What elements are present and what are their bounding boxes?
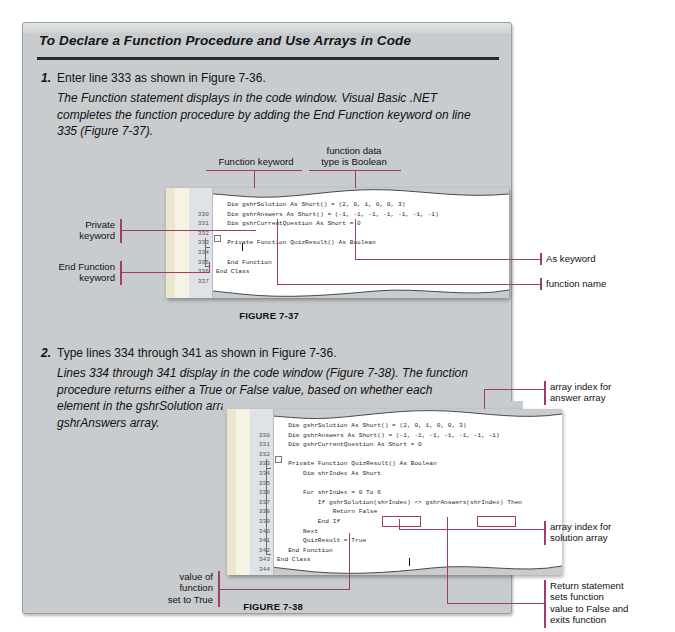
callout-solution-array-index: array index for solution array [550,521,675,544]
page-root: To Declare a Function Procedure and Use … [0,0,675,632]
figure-7-37: 330 331 332 333 334 335 336 337 Dim gshr… [166,188,509,298]
callout-return-statement: Return statement sets function value to … [550,580,675,626]
callout-solution-array-index-bar [544,521,546,545]
step-1-number: 1. [41,71,51,85]
torn-edge-bottom-1 [166,285,509,298]
highlight-answer-index-b [477,516,516,527]
code-line-numbers-2: 330 331 332 333 334 335 336 337 338 339 … [251,421,270,575]
callout-as-keyword-bar [540,253,542,265]
code-caret-2 [409,558,410,566]
callout-answer-array-index-bar [544,381,546,405]
instruction-panel: To Declare a Function Procedure and Use … [22,22,512,614]
callout-value-of-function-leader [220,589,350,590]
code-gutter-divider-2 [273,409,274,575]
code-gutter-shadow-1 [166,188,175,298]
callout-function-name-bar [540,278,542,290]
callout-function-name-leader [277,284,540,285]
figure-7-38: 330 331 332 333 334 335 336 337 338 339 … [227,409,562,575]
code-gutter-cream-1 [175,188,189,298]
callout-solution-array-index-leader [399,529,544,530]
callout-private-keyword-bar [120,219,122,243]
callout-as-keyword-leader [355,259,540,260]
code-text-2: Dim gshrSolution As Short() = (2, 0, 1, … [277,421,522,565]
callout-answer-array-index: array index for answer array [550,381,675,404]
callout-return-statement-leader-v [447,517,448,603]
callout-value-of-function: value of function set to True [143,571,213,605]
code-tree-branch-2a [266,468,271,469]
page-title: To Declare a Function Procedure and Use … [39,33,499,48]
callout-as-keyword: As keyword [546,253,675,264]
callout-return-statement-leader [447,603,544,604]
code-collapse-box-2[interactable]: - [275,456,282,463]
callout-end-function-keyword-leader-v [209,262,210,273]
step-2-heading: Type lines 334 through 341 as shown in F… [57,346,487,360]
highlight-answer-index-a [382,516,421,527]
callout-end-function-keyword-leader [122,272,210,273]
callout-solution-array-index-leader-v [399,519,400,529]
figure-7-37-caption: FIGURE 7-37 [209,310,329,321]
code-line-numbers-1: 330 331 332 333 334 335 336 337 [190,200,209,286]
callout-private-keyword-leader [122,230,256,231]
step-1-body: The Function statement displays in the c… [57,90,477,140]
callout-end-function-keyword: End Function keyword [37,261,115,284]
code-caret-1 [242,243,243,251]
callout-answer-array-index-leader [484,389,544,390]
callout-function-name: function name [546,278,675,289]
code-collapse-box-1[interactable]: - [214,235,221,242]
callout-function-name-leader-v [277,219,278,284]
title-divider [37,57,499,60]
figure-7-38-caption: FIGURE 7-38 [213,601,333,612]
code-tree-branch-2b [266,554,271,555]
code-gutter-cream-2 [236,409,250,575]
code-tree-vertical-2 [266,459,267,554]
code-text-1: Dim gshrSolution As Short() = (2, 0, 1, … [216,200,439,277]
code-gutter-shadow-2 [227,409,236,575]
callout-end-function-keyword-bar [120,261,122,285]
callout-function-data-type: function data type is Boolean [307,145,401,168]
code-tree-branch-1a [205,247,210,248]
callout-return-statement-bar [544,580,546,628]
callout-function-keyword: Function keyword [206,156,306,167]
step-2-number: 2. [41,346,51,360]
callout-value-of-function-leader-v [349,533,350,589]
callout-private-keyword: Private keyword [53,219,115,242]
callout-as-keyword-leader-v [355,219,356,259]
code-tree-vertical-1 [205,238,206,266]
step-1-heading: Enter line 333 as shown in Figure 7-36. [57,71,487,85]
code-gutter-divider-1 [212,188,213,298]
